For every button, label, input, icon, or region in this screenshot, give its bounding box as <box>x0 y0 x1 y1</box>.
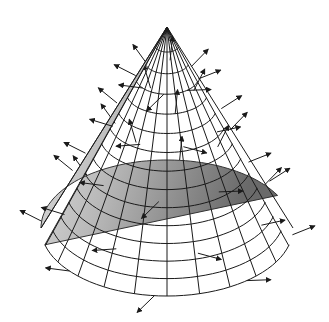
normal-vector-arrow <box>265 168 282 185</box>
normal-vector-arrow <box>114 65 135 76</box>
normal-vector-arrow <box>221 96 241 109</box>
normal-vector-arrow <box>249 153 271 162</box>
normal-vector-arrow <box>217 127 240 132</box>
surface-grid <box>41 27 293 296</box>
normal-vector-arrow <box>247 280 271 281</box>
normal-vector-arrow <box>183 147 206 153</box>
normal-vector-arrow <box>147 94 164 111</box>
cone-diagram <box>0 0 329 322</box>
normal-vector-arrow <box>191 49 208 66</box>
normal-vector-arrow <box>54 155 73 170</box>
normal-vector-arrow <box>98 88 117 103</box>
normal-vector-arrow <box>64 142 85 153</box>
normal-vector-arrow <box>137 296 154 313</box>
normal-vector-arrow <box>187 90 211 91</box>
normal-vector-arrow <box>133 45 147 65</box>
normal-vector-arrow <box>20 210 41 221</box>
grid-meridian <box>167 27 276 262</box>
normal-vector-arrow <box>292 226 314 235</box>
normal-vector-arrow <box>261 220 284 225</box>
normal-vector-arrow <box>270 168 290 181</box>
